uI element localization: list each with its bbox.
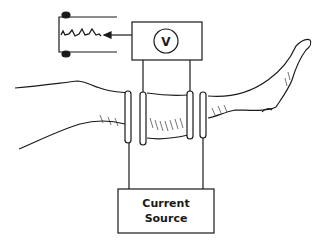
recorder-roller-bottom xyxy=(62,51,70,57)
plethysmography-diagram: V Current Source xyxy=(0,0,326,241)
leg-top-contour xyxy=(15,81,130,93)
leg-bottom-contour xyxy=(19,121,125,149)
electrode-band-outer-left xyxy=(125,91,131,143)
ankle-mark xyxy=(262,109,272,112)
electrode-band-outer-right xyxy=(200,92,206,138)
voltmeter-symbol: V xyxy=(161,35,171,49)
voltmeter: V xyxy=(132,22,202,93)
current-source: Current Source xyxy=(118,138,214,233)
electrode-bands xyxy=(125,91,206,145)
signal-arrowhead xyxy=(104,32,111,38)
leg-calf-bottom xyxy=(147,135,188,139)
leg-foot-contour xyxy=(208,39,311,118)
leg xyxy=(15,39,311,149)
waveform-trace xyxy=(61,29,101,36)
chart-recorder xyxy=(59,12,132,57)
electrode-band-inner-left xyxy=(140,92,146,145)
leg-calf-top xyxy=(147,93,188,95)
current-source-label-line2: Source xyxy=(145,212,188,225)
current-source-label-line1: Current xyxy=(142,197,189,210)
electrode-band-inner-right xyxy=(187,91,193,139)
recorder-roller-top xyxy=(62,12,70,18)
current-source-box xyxy=(118,189,214,233)
